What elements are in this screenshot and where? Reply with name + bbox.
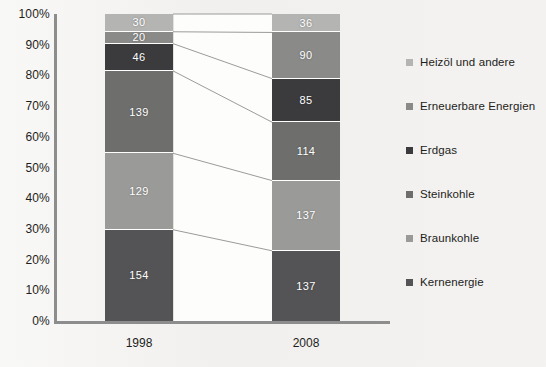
segment-value-label: 129 <box>129 185 148 197</box>
segment-2008-braunkohle[interactable]: 137 <box>272 181 340 251</box>
legend-label: Braunkohle <box>420 232 479 244</box>
legend-swatch-icon <box>406 59 413 66</box>
legend-label: Steinkohle <box>420 188 475 200</box>
y-axis-tick-30: 30% <box>4 222 50 236</box>
x-axis-label-2008: 2008 <box>246 336 366 350</box>
segment-value-label: 90 <box>300 49 313 61</box>
y-axis-tick-60: 60% <box>4 130 50 144</box>
segment-2008-steinkohle[interactable]: 114 <box>272 122 340 180</box>
legend-item-steinkohle[interactable]: Steinkohle <box>406 172 546 216</box>
y-axis-tick-50: 50% <box>4 161 50 175</box>
segment-value-label: 137 <box>296 280 315 292</box>
segment-1998-steinkohle[interactable]: 139 <box>105 71 173 153</box>
segment-value-label: 114 <box>297 145 315 157</box>
segment-value-label: 154 <box>129 269 148 281</box>
legend-swatch-icon <box>406 103 413 110</box>
legend-label: Erneuerbare Energien <box>420 100 535 112</box>
chart-legend: Heizöl und andereErneuerbare EnergienErd… <box>406 40 546 304</box>
segment-value-label: 139 <box>129 106 148 118</box>
segment-value-label: 36 <box>300 17 313 29</box>
y-axis-line <box>54 14 57 324</box>
connector-line <box>173 44 272 79</box>
y-axis-tick-70: 70% <box>4 99 50 113</box>
legend-swatch-icon <box>406 147 413 154</box>
bar-1998[interactable]: 302046139129154 <box>105 14 173 321</box>
segment-1998-kernenergie[interactable]: 154 <box>105 230 173 321</box>
connector-line <box>173 153 272 180</box>
stacked-bar-chart: 100%90%80%70%60%50%40%30%20%10%0% 302046… <box>0 0 546 367</box>
segment-2008-erneuerbare-energien[interactable]: 90 <box>272 32 340 78</box>
x-axis-line <box>54 321 390 324</box>
bar-2008[interactable]: 369085114137137 <box>272 14 340 321</box>
y-axis-tick-100: 100% <box>4 7 50 21</box>
legend-swatch-icon <box>406 235 413 242</box>
legend-item-braunkohle[interactable]: Braunkohle <box>406 216 546 260</box>
segment-value-label: 46 <box>133 51 146 63</box>
x-axis-label-1998: 1998 <box>79 336 199 350</box>
legend-item-erdgas[interactable]: Erdgas <box>406 128 546 172</box>
legend-label: Erdgas <box>420 144 457 156</box>
y-axis-tick-0: 0% <box>4 314 50 328</box>
segment-1998-erneuerbare-energien[interactable]: 20 <box>105 32 173 44</box>
y-axis-tick-20: 20% <box>4 253 50 267</box>
legend-label: Heizöl und andere <box>420 56 515 68</box>
segment-value-label: 137 <box>296 209 315 221</box>
segment-value-label: 20 <box>133 31 146 43</box>
segment-value-label: 30 <box>133 16 146 28</box>
segment-2008-erdgas[interactable]: 85 <box>272 79 340 123</box>
segment-value-label: 85 <box>300 94 313 106</box>
segment-2008-heiz-l-und-andere[interactable]: 36 <box>272 14 340 32</box>
y-axis-tick-40: 40% <box>4 191 50 205</box>
y-axis-tick-90: 90% <box>4 38 50 52</box>
legend-item-erneuerbare-energien[interactable]: Erneuerbare Energien <box>406 84 546 128</box>
y-axis-tick-10: 10% <box>4 283 50 297</box>
legend-swatch-icon <box>406 191 413 198</box>
segment-1998-erdgas[interactable]: 46 <box>105 44 173 71</box>
segment-2008-kernenergie[interactable]: 137 <box>272 251 340 321</box>
connector-line <box>173 32 272 33</box>
legend-swatch-icon <box>406 279 413 286</box>
y-axis-tick-80: 80% <box>4 68 50 82</box>
connector-line <box>173 71 272 122</box>
y-axis-tick-labels: 100%90%80%70%60%50%40%30%20%10%0% <box>0 0 50 367</box>
segment-1998-braunkohle[interactable]: 129 <box>105 153 173 229</box>
segment-connector-lines <box>173 14 272 321</box>
legend-item-kernenergie[interactable]: Kernenergie <box>406 260 546 304</box>
connector-line <box>173 230 272 251</box>
legend-label: Kernenergie <box>420 276 484 288</box>
segment-1998-heiz-l-und-andere[interactable]: 30 <box>105 14 173 32</box>
legend-item-heiz-l-und-andere[interactable]: Heizöl und andere <box>406 40 546 84</box>
